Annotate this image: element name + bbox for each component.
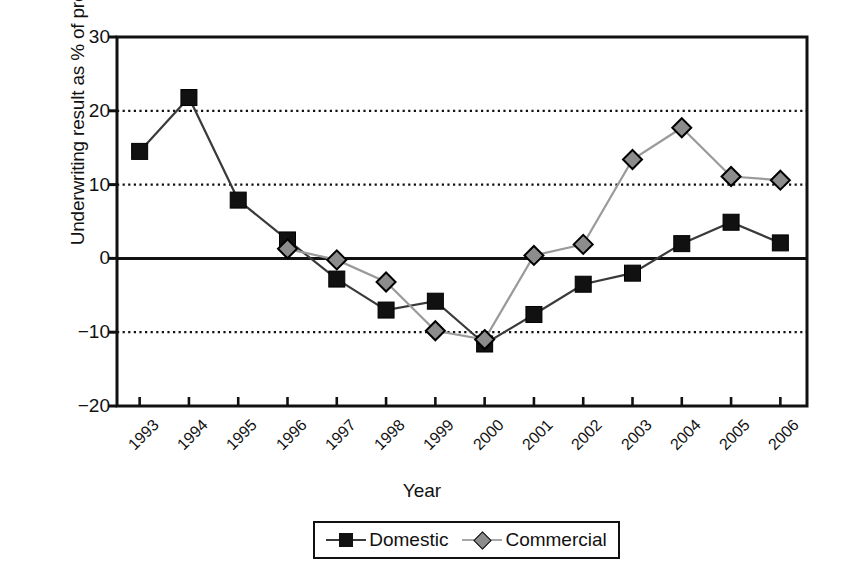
legend-item-commercial: Commercial	[462, 529, 606, 551]
x-axis-label: Year	[0, 480, 844, 502]
y-tick-label-10: 10	[89, 174, 110, 196]
y-tick-label-30: 30	[89, 26, 110, 48]
data-point-domestic-2005	[723, 214, 739, 230]
chart-legend: Domestic Commercial	[313, 521, 620, 559]
data-point-domestic-2006	[772, 235, 788, 251]
data-point-commercial-1997	[327, 250, 346, 269]
plot-frame	[117, 37, 807, 406]
legend-label-commercial: Commercial	[505, 529, 606, 551]
data-point-commercial-2002	[574, 235, 593, 254]
legend-label-domestic: Domestic	[369, 529, 448, 551]
y-tick-label-0: 0	[99, 247, 110, 269]
data-point-domestic-1999	[427, 293, 443, 309]
y-tick-label-20: 20	[89, 100, 110, 122]
data-point-commercial-2003	[623, 150, 642, 169]
data-point-domestic-1997	[329, 271, 345, 287]
y-tick-label--10: −10	[78, 321, 110, 343]
data-point-domestic-1993	[132, 143, 148, 159]
data-point-commercial-2006	[771, 171, 790, 190]
data-point-domestic-1995	[230, 192, 246, 208]
diamond-marker-icon	[462, 531, 502, 549]
data-point-domestic-2002	[575, 276, 591, 292]
data-point-domestic-1994	[181, 90, 197, 106]
chart-figure: Underwriting result as % of premiums 302…	[0, 0, 844, 587]
data-point-domestic-2004	[674, 236, 690, 252]
y-tick-label--20: −20	[78, 395, 110, 417]
data-point-domestic-2003	[625, 265, 641, 281]
legend-item-domestic: Domestic	[326, 529, 448, 551]
data-point-domestic-2001	[526, 306, 542, 322]
data-point-commercial-2001	[524, 246, 543, 265]
square-marker-icon	[326, 531, 366, 549]
data-point-domestic-1998	[378, 302, 394, 318]
